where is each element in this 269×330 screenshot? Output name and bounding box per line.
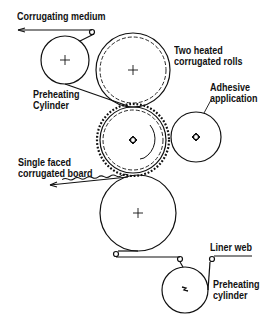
label-single-faced-line1: Single faced: [18, 157, 71, 168]
preheating-cylinder-bottom: [162, 267, 208, 313]
label-two-heated-rolls-line2: corrugated rolls: [174, 56, 243, 67]
label-adhesive-line1: Adhesive: [210, 82, 250, 93]
label-preheating-cylinder-top-line1: Preheating: [33, 89, 80, 100]
label-preheating-cylinder-bottom-line1: Preheating: [213, 279, 260, 290]
lower-corrugated-roll: [97, 104, 169, 176]
label-single-faced-line2: corrugated board: [18, 168, 93, 179]
label-liner-web: Liner web: [210, 242, 252, 253]
label-preheating-cylinder-bottom-line2: cylinder: [213, 290, 248, 301]
label-adhesive-line2: application: [210, 93, 258, 104]
upper-corrugated-roll: [96, 33, 170, 107]
pressure-roll: [100, 175, 176, 251]
label-preheating-cylinder-top-line2: Cylinder: [33, 100, 69, 111]
adhesive-roll: [171, 100, 221, 162]
corrugating-medium-web: [18, 28, 95, 41]
label-corrugating-medium: Corrugating medium: [17, 11, 106, 22]
label-two-heated-rolls-line1: Two heated: [174, 45, 223, 56]
